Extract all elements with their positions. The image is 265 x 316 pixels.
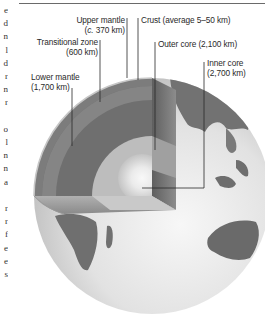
label-value: (c. 370 km) <box>68 26 125 36</box>
label-name: Crust (average 5–50 km) <box>141 16 230 26</box>
label-name: Outer core (2,100 km) <box>158 40 237 50</box>
label-crust: Crust (average 5–50 km) <box>141 16 230 26</box>
label-value: (600 km) <box>32 48 98 58</box>
label-value: (2,700 km) <box>207 69 246 79</box>
label-upper-mantle: Upper mantle (c. 370 km) <box>68 16 125 35</box>
label-inner-core: Inner core (2,700 km) <box>207 59 246 78</box>
label-outer-core: Outer core (2,100 km) <box>158 40 237 50</box>
label-lower-mantle: Lower mantle (1,700 km) <box>31 73 80 92</box>
label-transitional-zone: Transitional zone (600 km) <box>32 38 98 57</box>
earth-layers-diagram: e d n l d r n r o l n n a r r f e e s <box>0 0 265 316</box>
label-value: (1,700 km) <box>31 83 80 93</box>
